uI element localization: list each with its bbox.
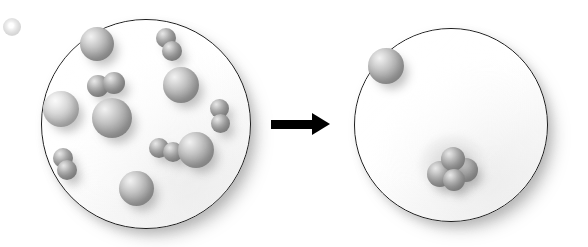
arrow-head-icon <box>312 113 330 135</box>
reaction-arrow <box>271 113 330 135</box>
left-vessel <box>41 19 251 229</box>
right-vessel <box>354 28 548 222</box>
arrow-shaft <box>271 120 312 129</box>
left-vessel-haze <box>42 20 250 228</box>
figure-title: Particle diagram of a gas-phase change <box>0 0 1 1</box>
particle-diagram-figure: Particle diagram of a gas-phase change L… <box>0 0 588 247</box>
figure-caption: Left container of dispersed atoms and di… <box>0 0 1 1</box>
stray-particle <box>3 18 21 36</box>
right-vessel-haze <box>355 29 547 221</box>
